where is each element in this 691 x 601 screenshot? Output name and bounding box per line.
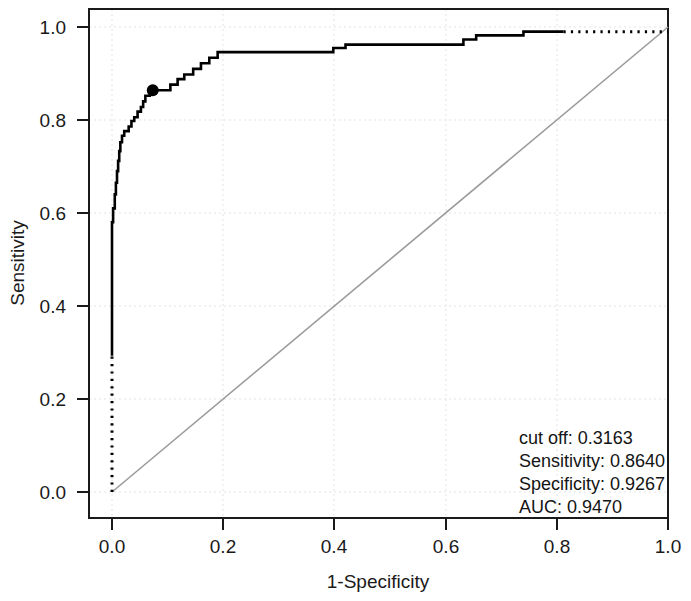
x-axis-ticks xyxy=(112,518,668,530)
xtick-label-4: 0.8 xyxy=(544,536,570,557)
xtick-label-1: 0.2 xyxy=(210,536,236,557)
annotation-sensitivity: Sensitivity: 0.8640 xyxy=(519,451,665,471)
ytick-label-0: 0.0 xyxy=(40,482,66,503)
optimal-cutoff-point-marker xyxy=(147,84,159,96)
annotation-cutoff: cut off: 0.3163 xyxy=(519,428,633,448)
annotation-specificity: Specificity: 0.9267 xyxy=(519,474,665,494)
ytick-label-2: 0.4 xyxy=(40,296,67,317)
statistics-annotation: cut off: 0.3163 Sensitivity: 0.8640 Spec… xyxy=(519,428,665,517)
xtick-label-2: 0.4 xyxy=(321,536,348,557)
roc-curve-line xyxy=(112,32,563,356)
y-axis-title: Sensitivity xyxy=(7,220,28,306)
xtick-label-3: 0.6 xyxy=(433,536,459,557)
y-axis-ticks xyxy=(77,27,89,492)
annotation-auc: AUC: 0.9470 xyxy=(519,497,622,517)
xtick-label-5: 1.0 xyxy=(655,536,681,557)
roc-curve-figure: 0.0 0.2 0.4 0.6 0.8 1.0 0.0 0.2 0.4 0.6 … xyxy=(0,0,691,601)
roc-plot-svg: 0.0 0.2 0.4 0.6 0.8 1.0 0.0 0.2 0.4 0.6 … xyxy=(0,0,691,601)
chance-diagonal-line xyxy=(112,27,668,492)
ytick-label-4: 0.8 xyxy=(40,110,66,131)
x-tick-labels: 0.0 0.2 0.4 0.6 0.8 1.0 xyxy=(99,536,681,557)
xtick-label-0: 0.0 xyxy=(99,536,125,557)
ytick-label-1: 0.2 xyxy=(40,389,66,410)
x-axis-title: 1-Specificity xyxy=(327,571,430,592)
ytick-label-3: 0.6 xyxy=(40,203,66,224)
y-tick-labels: 0.0 0.2 0.4 0.6 0.8 1.0 xyxy=(40,17,67,503)
ytick-label-5: 1.0 xyxy=(40,17,66,38)
